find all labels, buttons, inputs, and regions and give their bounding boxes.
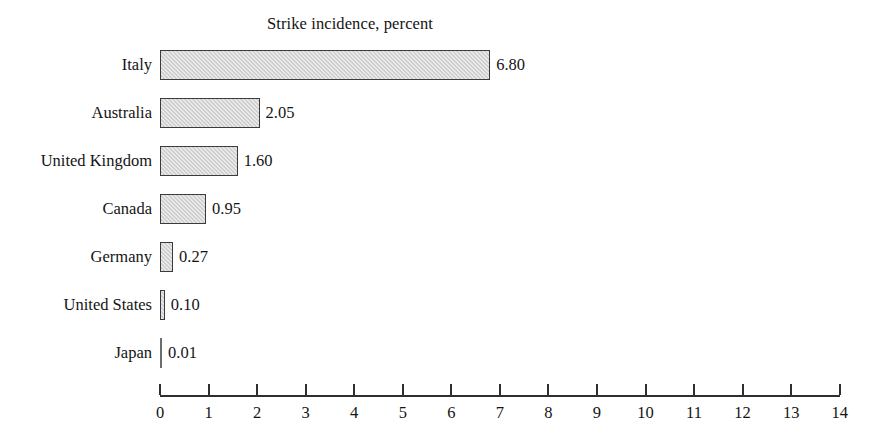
value-label-canada: 0.95 [212,201,241,218]
value-label-japan: 0.01 [168,345,197,362]
x-axis-tick-label: 11 [674,405,714,422]
category-label-united-states: United States [64,297,152,314]
x-axis-tick [305,384,307,395]
bar-japan [160,338,162,368]
category-label-germany: Germany [91,249,152,266]
x-axis-tick-label: 1 [189,405,229,422]
x-axis-tick [693,384,695,395]
category-label-canada: Canada [103,201,152,218]
x-axis-tick-label: 4 [334,405,374,422]
value-label-australia: 2.05 [266,105,295,122]
x-axis-tick-label: 0 [140,405,180,422]
x-axis-tick [596,384,598,395]
bar-chart: Strike incidence, percent Italy6.80Austr… [0,0,880,441]
category-label-italy: Italy [122,57,152,74]
x-axis-tick-label: 9 [577,405,617,422]
bar-row: United Kingdom1.60 [0,146,880,176]
x-axis-tick-label: 8 [528,405,568,422]
bar-italy [160,50,490,80]
x-axis-tick [256,384,258,395]
bar-row: Japan0.01 [0,338,880,368]
x-axis-tick-label: 7 [480,405,520,422]
value-label-germany: 0.27 [179,249,208,266]
plot-area: Italy6.80Australia2.05United Kingdom1.60… [0,0,880,441]
x-axis-tick-label: 6 [431,405,471,422]
x-axis-tick-label: 3 [286,405,326,422]
bar-united-kingdom [160,146,238,176]
x-axis-tick-label: 5 [383,405,423,422]
x-axis-tick [450,384,452,395]
x-axis-tick [839,384,841,395]
x-axis-tick [402,384,404,395]
bar-row: Germany0.27 [0,242,880,272]
x-axis-tick-label: 12 [723,405,763,422]
x-axis-line [160,395,840,397]
x-axis-tick-label: 2 [237,405,277,422]
x-axis-tick [353,384,355,395]
value-label-united-kingdom: 1.60 [244,153,273,170]
bar-germany [160,242,173,272]
x-axis-tick [208,384,210,395]
x-axis-tick [499,384,501,395]
category-label-japan: Japan [114,345,152,362]
category-label-united-kingdom: United Kingdom [41,153,152,170]
x-axis-tick-label: 10 [626,405,666,422]
x-axis-tick [790,384,792,395]
bar-canada [160,194,206,224]
bar-row: United States0.10 [0,290,880,320]
bar-row: Australia2.05 [0,98,880,128]
x-axis-tick [645,384,647,395]
bar-row: Canada0.95 [0,194,880,224]
bar-australia [160,98,260,128]
x-axis-tick [742,384,744,395]
value-label-italy: 6.80 [496,57,525,74]
value-label-united-states: 0.10 [171,297,200,314]
x-axis-tick-label: 14 [820,405,860,422]
category-label-australia: Australia [92,105,152,122]
x-axis-tick [547,384,549,395]
x-axis-tick [159,384,161,395]
bar-united-states [160,290,165,320]
x-axis-tick-label: 13 [771,405,811,422]
bar-row: Italy6.80 [0,50,880,80]
